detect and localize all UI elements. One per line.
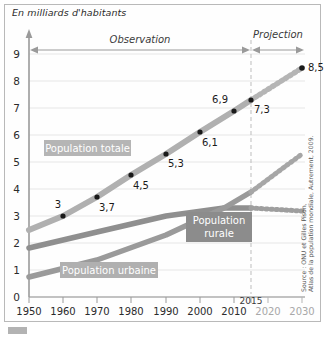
value-label-2010: 6,9 [212, 94, 228, 105]
y-tick-9: 9 [13, 48, 20, 60]
legend-rurale-label-line2: rurale [204, 228, 234, 239]
x-tick-1970: 1970 [84, 306, 109, 317]
legend-population-rurale: Population rurale [186, 212, 252, 242]
source-line-1: Source : ONU et Gilles Pison, [300, 203, 307, 292]
y-tick-1: 1 [13, 264, 20, 276]
phase-projection-label: Projection [253, 29, 303, 40]
value-label-1990: 5,3 [168, 158, 184, 169]
x-tick-1960: 1960 [50, 306, 75, 317]
y-tick-2: 2 [13, 237, 20, 249]
x-tick-2000: 2000 [187, 306, 212, 317]
legend-urbaine-label: Population urbaine [62, 265, 156, 276]
value-label-1970: 3,7 [99, 202, 115, 213]
value-label-1980: 4,5 [133, 180, 149, 191]
value-label-1960: 3 [55, 199, 61, 210]
source-line-2: Atlas de la population mondiale, Autreme… [307, 135, 315, 292]
y-tick-4: 4 [13, 183, 20, 195]
divider-year-label: 2015 [240, 296, 263, 306]
y-tick-7: 7 [13, 102, 20, 114]
y-tick-6: 6 [13, 129, 20, 141]
phase-arrows [30, 47, 304, 54]
source-credit: Source : ONU et Gilles Pison, Atlas de l… [300, 135, 315, 292]
x-tick-2010: 2010 [221, 306, 246, 317]
corner-marker [8, 327, 27, 334]
x-tick-1980: 1980 [118, 306, 143, 317]
y-tick-3: 3 [13, 210, 20, 222]
legend-rurale-label-line1: Population [193, 215, 246, 226]
chart-canvas: 0 1 2 3 4 5 6 7 8 9 1950 1960 1970 1980 … [0, 0, 327, 338]
phase-observation-label: Observation [110, 34, 171, 45]
x-axis [29, 297, 305, 303]
legend-totale-label: Population totale [45, 143, 130, 154]
x-tick-1990: 1990 [153, 306, 178, 317]
y-axis [26, 29, 33, 297]
y-tick-labels: 0 1 2 3 4 5 6 7 8 9 [13, 48, 20, 303]
value-label-2000: 6,1 [202, 137, 218, 148]
x-tick-2030: 2030 [289, 306, 314, 317]
y-tick-5: 5 [13, 156, 20, 168]
x-tick-1950: 1950 [16, 306, 41, 317]
y-tick-0: 0 [13, 291, 20, 303]
value-label-2030: 8,5 [308, 62, 324, 73]
legend-population-urbaine: Population urbaine [60, 262, 158, 278]
legend-population-totale: Population totale [44, 140, 131, 156]
y-tick-8: 8 [13, 75, 20, 87]
x-tick-labels: 1950 1960 1970 1980 1990 2000 2010 2020 … [16, 306, 314, 317]
x-tick-2020: 2020 [255, 306, 280, 317]
value-label-2015: 7,3 [254, 104, 270, 115]
